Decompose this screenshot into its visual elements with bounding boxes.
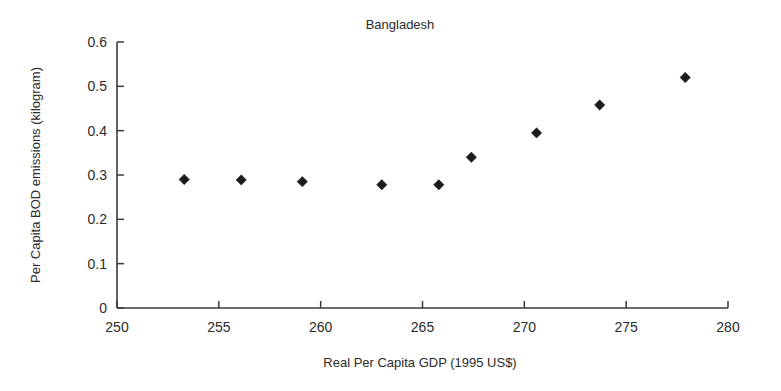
x-tick-label: 260 — [309, 319, 333, 335]
y-tick-label: 0.1 — [88, 256, 108, 272]
x-axis-title: Real Per Capita GDP (1995 US$) — [323, 355, 516, 370]
scatter-plot-svg: Bangladesh Per Capita BOD emissions (kil… — [0, 0, 781, 391]
x-tick-label: 255 — [207, 319, 231, 335]
x-tick-label: 275 — [614, 319, 638, 335]
y-tick-label: 0.3 — [88, 167, 108, 183]
y-tick-label: 0 — [99, 300, 107, 316]
x-tick-label: 280 — [716, 319, 740, 335]
y-axis-title: Per Capita BOD emissions (kilogram) — [28, 67, 43, 283]
y-tick-label: 0.6 — [88, 34, 108, 50]
x-tick-label: 270 — [513, 319, 537, 335]
chart-figure: Bangladesh Per Capita BOD emissions (kil… — [0, 0, 781, 391]
x-tick-label: 250 — [105, 319, 129, 335]
y-tick-label: 0.2 — [88, 211, 108, 227]
y-tick-label: 0.4 — [88, 123, 108, 139]
y-tick-label: 0.5 — [88, 78, 108, 94]
chart-title: Bangladesh — [366, 17, 435, 32]
x-tick-label: 265 — [411, 319, 435, 335]
